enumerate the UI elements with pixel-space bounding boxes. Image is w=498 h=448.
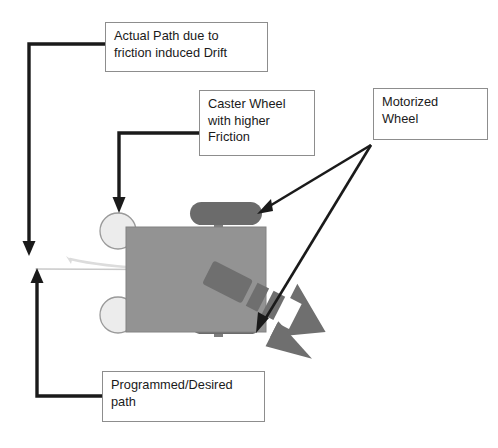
diagram-canvas: Actual Path due to friction induced Drif… <box>0 0 498 448</box>
connector-motorized-wheel-bottom <box>256 145 371 333</box>
robot-assembly <box>100 202 339 368</box>
callout-motorized-wheel: Motorized Wheel <box>373 88 488 140</box>
callout-actual-path: Actual Path due to friction induced Drif… <box>105 22 268 72</box>
connector-programmed-path <box>31 268 103 396</box>
motorized-wheel-top <box>190 202 262 225</box>
connector-caster-wheel <box>113 133 200 213</box>
connector-actual-path <box>23 44 106 256</box>
callout-caster-wheel: Caster Wheel with higher Friction <box>199 90 315 156</box>
callout-programmed-path: Programmed/Desired path <box>102 371 265 422</box>
